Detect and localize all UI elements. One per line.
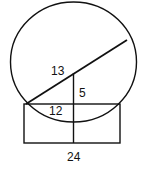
geometry-diagram: 13 5 12 24 [0,0,141,174]
rectangle [24,104,120,143]
label-13: 13 [51,64,65,78]
diagonal-chord [26,40,127,104]
label-5: 5 [79,86,86,100]
label-12: 12 [49,104,63,118]
label-24: 24 [67,150,81,164]
